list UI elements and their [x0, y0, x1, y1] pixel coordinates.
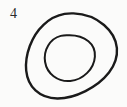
figure-label: 4 — [10, 6, 17, 22]
figure-background — [0, 0, 127, 107]
figure-container: 4 — [0, 0, 127, 107]
hand-drawn-sketch — [0, 0, 127, 107]
